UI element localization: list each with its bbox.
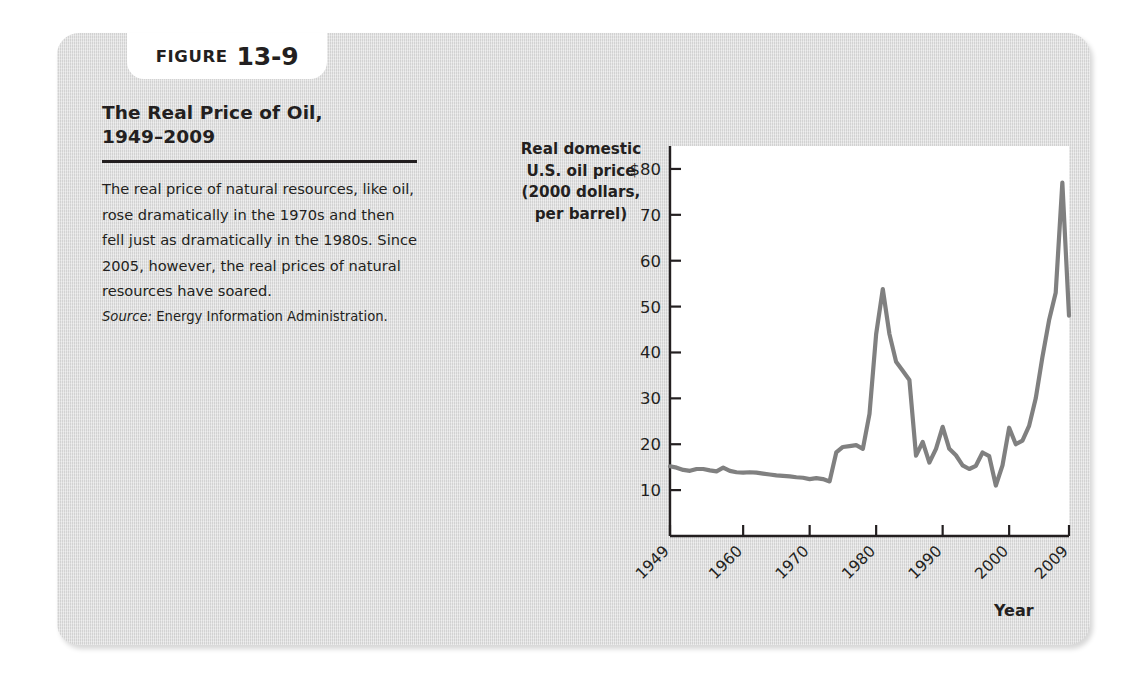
x-axis-tick-label: 1980 [838, 542, 879, 583]
source-label: Source: [102, 309, 152, 324]
x-axis-tick-label: 1960 [705, 542, 746, 583]
x-axis-tick-label: 2000 [971, 542, 1012, 583]
y-axis-tick-label: 60 [640, 252, 661, 271]
caption-column: The Real Price of Oil, 1949–2009 The rea… [102, 101, 422, 327]
y-axis-tick-label: 20 [640, 435, 661, 454]
oil-price-line-chart: $807060504030201019491960197019801990200… [497, 111, 1087, 631]
figure-description: The real price of natural resources, lik… [102, 176, 420, 304]
x-axis-tick-label: 1970 [772, 542, 813, 583]
figure-source: Source: Energy Information Administratio… [102, 307, 422, 327]
y-axis-tick-label: 50 [640, 298, 661, 317]
x-axis-tick-label: 2009 [1031, 542, 1072, 583]
figure-number-badge: FIGURE 13-9 [127, 33, 327, 79]
y-axis-tick-label: $80 [630, 160, 662, 179]
chart-container: Real domestic U.S. oil price (2000 dolla… [497, 111, 1087, 631]
y-axis-tick-label: 30 [640, 389, 661, 408]
y-axis-tick-label: 70 [640, 206, 661, 225]
x-axis-tick-label: 1949 [632, 542, 673, 583]
figure-badge-number: 13-9 [237, 42, 299, 71]
figure-badge-word: FIGURE [156, 47, 228, 66]
figure-title: The Real Price of Oil, 1949–2009 [102, 101, 422, 149]
x-axis-title: Year [994, 601, 1034, 620]
y-axis-tick-label: 40 [640, 343, 661, 362]
caption-divider [102, 160, 417, 163]
y-axis-tick-label: 10 [640, 481, 661, 500]
figure-card: FIGURE 13-9 The Real Price of Oil, 1949–… [57, 33, 1090, 645]
x-axis-tick-label: 1990 [905, 542, 946, 583]
source-text: Energy Information Administration. [156, 309, 388, 324]
